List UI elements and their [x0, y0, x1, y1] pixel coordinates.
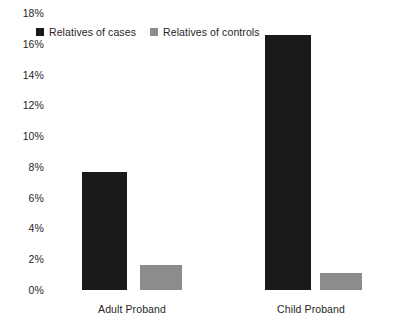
- legend-entry-1[interactable]: Relatives of controls: [150, 27, 260, 38]
- legend-label: Relatives of controls: [163, 27, 260, 38]
- y-axis-tick-label: 8%: [29, 162, 44, 173]
- y-axis-tick-label: 2%: [29, 254, 44, 265]
- bar-1-0: [140, 265, 182, 290]
- bar-1-1: [320, 273, 362, 290]
- x-axis-category-label: Adult Proband: [98, 304, 166, 315]
- gray-square-swatch: [150, 28, 158, 36]
- legend-entry-0[interactable]: Relatives of cases: [36, 27, 136, 38]
- y-axis-tick-label: 10%: [23, 131, 44, 142]
- plot-area: Adult ProbandChild Proband: [52, 0, 414, 328]
- y-axis-tick-label: 4%: [29, 223, 44, 234]
- dark-square-swatch: [36, 28, 44, 36]
- bar-0-0: [82, 172, 127, 290]
- bar-chart: 18%16%14%12%10%8%6%4%2%0% Adult ProbandC…: [0, 0, 414, 328]
- x-axis-category-label: Child Proband: [277, 304, 345, 315]
- y-axis-tick-label: 0%: [29, 285, 44, 296]
- bar-0-1: [265, 35, 311, 290]
- y-axis-tick-label: 12%: [23, 100, 44, 111]
- y-axis-tick-label: 6%: [29, 192, 44, 203]
- y-axis-tick-label: 18%: [23, 8, 44, 19]
- y-axis-tick-label: 14%: [23, 69, 44, 80]
- y-axis: 18%16%14%12%10%8%6%4%2%0%: [0, 0, 52, 328]
- legend-label: Relatives of cases: [49, 27, 136, 38]
- y-axis-tick-label: 16%: [23, 39, 44, 50]
- chart-legend: Relatives of casesRelatives of controls: [36, 27, 260, 38]
